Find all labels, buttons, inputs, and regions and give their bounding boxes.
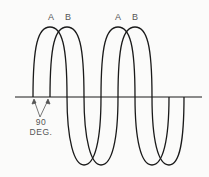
phase-annotation: 90 DEG. xyxy=(24,117,58,137)
phase-value: 90 xyxy=(24,117,58,127)
wave-b-label: B xyxy=(132,12,139,22)
phase-diagram xyxy=(0,0,209,177)
wave-b-label: B xyxy=(65,12,72,22)
phase-arrows xyxy=(32,99,50,117)
wave-a-label: A xyxy=(48,12,55,22)
phase-unit: DEG. xyxy=(24,127,58,137)
wave-b xyxy=(50,27,184,165)
wave-a-label: A xyxy=(115,12,122,22)
